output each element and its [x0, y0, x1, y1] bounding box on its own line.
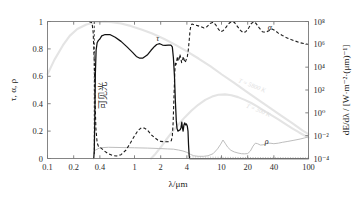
blackbody-curves-group	[48, 22, 309, 159]
alpha-label: α	[268, 23, 273, 32]
xtick-label-1: 0.2	[68, 163, 78, 172]
ytick-left-label-3: 0.6	[33, 72, 43, 81]
blackbody-300-label: T = 300 K	[245, 102, 272, 118]
ytick-left-label-4: 0.8	[33, 45, 43, 54]
xtick-label-9: 100	[302, 163, 315, 172]
xtick-label-4: 2	[159, 163, 163, 172]
xtick-label-7: 20	[244, 163, 252, 172]
curve-tau	[94, 35, 309, 159]
ytick-right-label-1: 10⁻²	[314, 132, 330, 141]
x-axis-title: λ/μm	[168, 179, 187, 189]
tau-label: τ	[156, 34, 160, 43]
xtick-label-0: 0.1	[42, 163, 52, 172]
annotations-group: ταρ可见光T = 5800 KT = 300 K	[97, 23, 273, 146]
ytick-right-label-0: 10⁻⁴	[314, 155, 330, 164]
axis-titles-group: λ/μmτ, α, ρdE/dλ / [W·m⁻²·(μm)⁻¹]	[8, 45, 351, 189]
tick-labels-group: 0.10.20.412410204010000.20.40.60.8110⁻⁴1…	[33, 18, 330, 173]
tau-curve-group	[94, 35, 309, 159]
xtick-label-2: 0.4	[95, 163, 106, 172]
ytick-right-label-4: 10⁴	[314, 63, 325, 72]
figure-container: 0.10.20.412410204010000.20.40.60.8110⁻⁴1…	[0, 0, 360, 200]
xtick-label-8: 40	[270, 163, 278, 172]
ytick-right-label-6: 10⁸	[314, 18, 325, 27]
blackbody-5800-label: T = 5800 K	[238, 76, 268, 94]
rho-curve-group	[94, 137, 309, 158]
ytick-right-label-2: 10⁰	[314, 109, 326, 118]
curve-blackbody_5800	[48, 22, 309, 134]
ytick-left-label-2: 0.4	[33, 100, 44, 109]
rho-label: ρ	[264, 137, 269, 146]
visible-light-label: 可见光	[97, 82, 108, 109]
chart-svg: 0.10.20.412410204010000.20.40.60.8110⁻⁴1…	[0, 0, 360, 200]
xtick-label-5: 4	[185, 163, 190, 172]
ytick-left-label-5: 1	[39, 18, 43, 27]
ytick-left-label-1: 0.2	[33, 127, 43, 136]
ytick-right-label-3: 10²	[314, 86, 325, 95]
curve-baseline-dotted	[190, 157, 308, 158]
y-axis-left-title: τ, α, ρ	[8, 78, 18, 101]
ytick-left-label-0: 0	[39, 155, 43, 164]
ytick-right-label-5: 10⁶	[314, 40, 325, 49]
axes-frame	[48, 22, 309, 159]
xtick-label-6: 10	[217, 163, 225, 172]
axes-group	[48, 22, 309, 159]
curve-rho	[94, 137, 309, 156]
y-axis-right-title: dE/dλ / [W·m⁻²·(μm)⁻¹]	[341, 45, 351, 135]
xtick-label-3: 1	[132, 163, 136, 172]
